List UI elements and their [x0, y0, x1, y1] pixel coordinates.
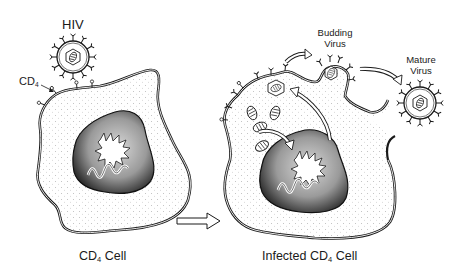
release-arrow — [360, 69, 402, 85]
hiv-label: HIV — [62, 18, 84, 31]
transition-arrow — [177, 213, 220, 229]
mature-virus — [397, 80, 443, 126]
budding-virus-label: Budding Virus — [312, 28, 358, 48]
cd4-cell-caption: CD4 Cell — [79, 250, 126, 263]
cd4-cell — [37, 70, 191, 233]
cd4-pointer-label: CD4 — [19, 76, 39, 88]
assembling-virion — [268, 80, 284, 96]
infected-cell-caption: Infected CD4 Cell — [262, 250, 357, 263]
hiv-infection-diagram: HIV CD4 Budding Virus Mature Virus CD4 C… — [0, 0, 461, 274]
mature-virus-label: Mature Virus — [400, 55, 442, 75]
infected-cell — [220, 64, 395, 239]
hiv-virion — [50, 34, 96, 80]
